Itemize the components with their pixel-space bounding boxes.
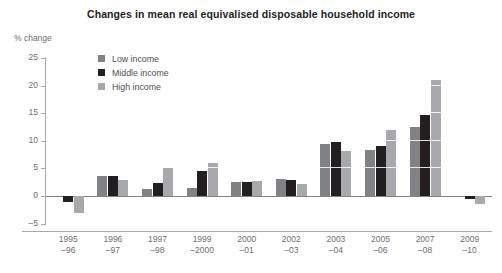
bar: [297, 184, 307, 196]
bar: [153, 183, 163, 196]
y-axis-tick: 15: [0, 113, 46, 114]
bar-gridline: [410, 140, 420, 141]
bar-gridline: [431, 140, 441, 141]
bar: [108, 176, 118, 196]
bar: [118, 180, 128, 196]
bar-gridline: [420, 167, 430, 168]
y-axis-tick-label: 15: [29, 107, 38, 117]
x-axis-label-line1: 2000: [237, 234, 256, 244]
x-axis-label-line1: 2009: [460, 234, 479, 244]
y-axis-tick: 20: [0, 86, 46, 87]
bar-group: [410, 58, 441, 224]
x-axis-labels: 1995–961996–971997–981999–20002000–01200…: [46, 234, 492, 268]
y-axis-tick-label: –5: [29, 218, 38, 228]
bar-group: [53, 58, 84, 224]
bar: [286, 180, 296, 196]
bar: [163, 168, 173, 196]
x-axis-label-line1: 1997: [148, 234, 167, 244]
bar: [475, 196, 485, 204]
bar-gridline: [431, 85, 441, 86]
bar-group: [320, 58, 351, 224]
bar-group: [97, 58, 128, 224]
x-axis-label-line1: 2005: [371, 234, 390, 244]
y-axis-tick-label: 5: [33, 162, 38, 172]
bar-gridline: [365, 167, 375, 168]
bar: [365, 150, 375, 196]
bar: [74, 196, 84, 213]
bar: [386, 130, 396, 196]
x-axis-label: 2005–06: [358, 234, 403, 256]
x-axis-label-line2: –06: [358, 245, 403, 256]
bar-group: [365, 58, 396, 224]
bar: [376, 146, 386, 196]
y-axis-tick: 0: [0, 196, 46, 197]
x-axis-label-line1: 2003: [326, 234, 345, 244]
y-axis-tick: 10: [0, 141, 46, 142]
bar: [331, 142, 341, 196]
y-axis-tick-label: 0: [33, 190, 38, 200]
bar: [410, 127, 420, 196]
bar: [252, 181, 262, 196]
x-axis-label-line2: –97: [91, 245, 136, 256]
x-axis-label-line2: –08: [403, 245, 448, 256]
x-axis-label: 2009–10: [447, 234, 492, 256]
bar-gridline: [431, 167, 441, 168]
bar: [242, 182, 252, 196]
y-axis-tick: 25: [0, 58, 46, 59]
bar: [142, 189, 152, 196]
x-axis-rule: [22, 231, 492, 232]
chart-title: Changes in mean real equivalised disposa…: [0, 8, 502, 20]
bar: [187, 188, 197, 196]
bar: [231, 182, 241, 196]
x-axis-label-line2: –04: [314, 245, 359, 256]
x-axis-label-line2: –98: [135, 245, 180, 256]
bar: [197, 171, 207, 196]
bar: [276, 179, 286, 196]
bar-groups: [46, 58, 492, 224]
x-axis-label-line1: 2002: [282, 234, 301, 244]
bar-group: [187, 58, 218, 224]
bar-gridline: [208, 167, 218, 168]
bar-gridline: [386, 167, 396, 168]
bar: [341, 151, 351, 196]
bar: [208, 163, 218, 196]
bar: [97, 176, 107, 196]
x-axis-label-line2: –01: [224, 245, 269, 256]
x-axis-label: 2007–08: [403, 234, 448, 256]
bar-gridline: [431, 112, 441, 113]
bar-gridline: [420, 140, 430, 141]
bar: [320, 144, 330, 196]
bar: [63, 196, 73, 202]
x-axis-label-line1: 1999: [193, 234, 212, 244]
bar-gridline: [320, 167, 330, 168]
x-axis-label: 2002–03: [269, 234, 314, 256]
x-axis-label-line2: –03: [269, 245, 314, 256]
x-axis-label-line2: –2000: [180, 245, 225, 256]
bar-gridline: [341, 167, 351, 168]
x-axis-label: 1995–96: [46, 234, 91, 256]
x-axis-label-line1: 1996: [103, 234, 122, 244]
bar-gridline: [376, 167, 386, 168]
y-axis-tick-label: 25: [29, 52, 38, 62]
x-axis-label-line2: –10: [447, 245, 492, 256]
chart-container: Changes in mean real equivalised disposa…: [0, 0, 502, 273]
x-axis-label-line1: 1995: [59, 234, 78, 244]
x-axis-label: 2000–01: [224, 234, 269, 256]
x-axis-label: 1999–2000: [180, 234, 225, 256]
y-axis-tick-label: 10: [29, 135, 38, 145]
bar-group: [276, 58, 307, 224]
bar-group: [142, 58, 173, 224]
bar-gridline: [410, 167, 420, 168]
y-axis-tick: –5: [0, 224, 46, 225]
x-axis-label: 1996–97: [91, 234, 136, 256]
x-axis-label: 1997–98: [135, 234, 180, 256]
x-axis-label-line1: 2007: [416, 234, 435, 244]
bar-group: [454, 58, 485, 224]
y-axis-tick: 5: [0, 168, 46, 169]
x-axis-label: 2003–04: [314, 234, 359, 256]
bar-group: [231, 58, 262, 224]
x-axis-label-line2: –96: [46, 245, 91, 256]
y-axis-tick-label: 20: [29, 80, 38, 90]
bar: [431, 80, 441, 196]
y-axis-unit-label: % change: [14, 33, 52, 43]
